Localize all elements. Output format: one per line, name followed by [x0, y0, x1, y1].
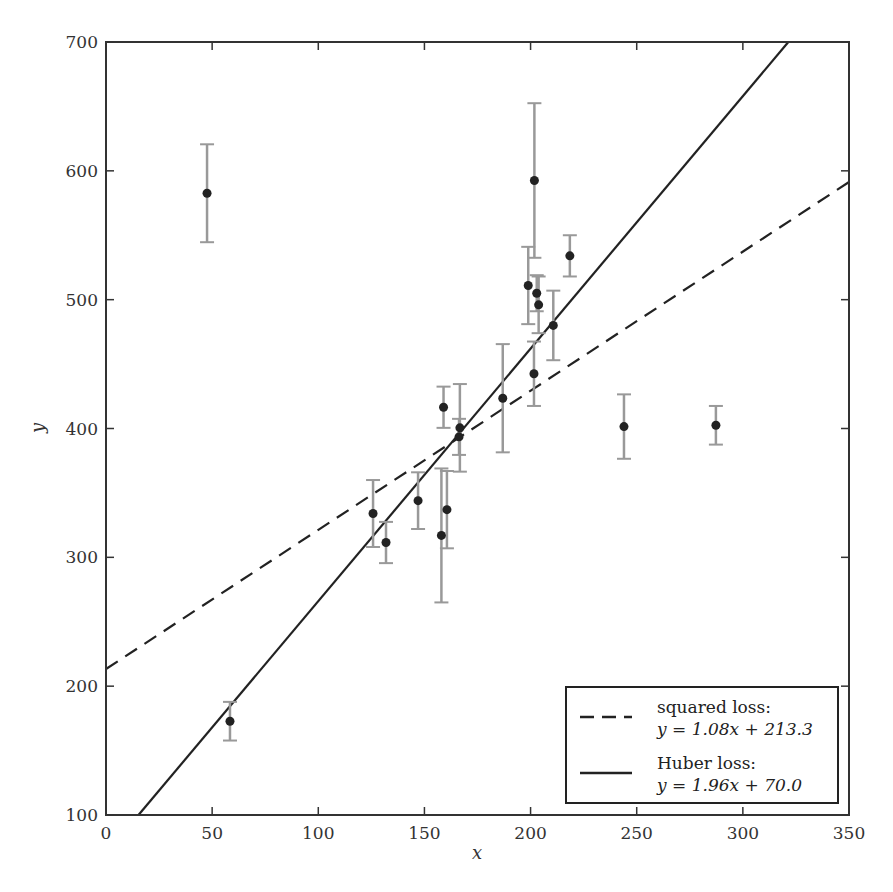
data-point: [442, 505, 451, 514]
x-tick-label: 350: [833, 823, 865, 843]
data-point: [524, 281, 533, 290]
legend-squared-equation: y = 1.08x + 213.3: [656, 719, 813, 739]
x-tick-label: 300: [727, 823, 759, 843]
x-tick-label: 0: [101, 823, 112, 843]
data-point: [619, 422, 628, 431]
data-point: [382, 538, 391, 547]
data-point: [414, 496, 423, 505]
data-point: [529, 369, 538, 378]
data-points: [203, 176, 721, 726]
data-point: [437, 531, 446, 540]
y-tick-label: 600: [66, 161, 98, 181]
x-tick-label: 100: [302, 823, 334, 843]
y-tick-label: 100: [66, 805, 98, 825]
data-point: [534, 300, 543, 309]
error-bars: [200, 103, 723, 740]
data-point: [498, 394, 507, 403]
legend-huber-title: Huber loss:: [657, 753, 756, 773]
scatter-plot: 0501001502002503003501002003004005006007…: [0, 0, 893, 892]
data-point: [439, 403, 448, 412]
y-tick-label: 200: [66, 676, 98, 696]
y-tick-label: 400: [66, 419, 98, 439]
x-tick-label: 150: [408, 823, 440, 843]
data-point: [369, 509, 378, 518]
y-tick-label: 700: [66, 32, 98, 52]
legend: squared loss: y = 1.08x + 213.3 Huber lo…: [566, 687, 838, 803]
y-tick-label: 300: [66, 547, 98, 567]
x-tick-label: 250: [620, 823, 652, 843]
legend-huber-equation: y = 1.96x + 70.0: [656, 775, 802, 795]
x-tick-label: 200: [514, 823, 546, 843]
data-point: [455, 423, 464, 432]
y-tick-label: 500: [66, 290, 98, 310]
data-point: [455, 432, 464, 441]
x-tick-label: 50: [201, 823, 223, 843]
legend-squared-title: squared loss:: [657, 697, 771, 717]
data-point: [225, 717, 234, 726]
data-point: [549, 321, 558, 330]
data-point: [711, 421, 720, 430]
data-point: [532, 289, 541, 298]
squared-loss-line: [106, 182, 849, 669]
y-axis-label: y: [27, 422, 48, 434]
x-axis-label: x: [472, 842, 482, 863]
data-point: [565, 251, 574, 260]
data-point: [530, 176, 539, 185]
data-point: [203, 189, 212, 198]
